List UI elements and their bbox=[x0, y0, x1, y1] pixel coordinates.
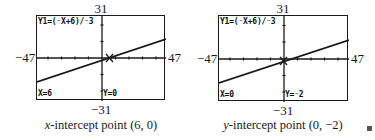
caption-x-intercept: x-intercept point (6, 0) bbox=[45, 118, 157, 132]
caption-text: -intercept point (0, −2) bbox=[229, 118, 343, 132]
equation-label: Y1=(⁻X+6)/⁻3 bbox=[38, 17, 93, 26]
graph-plot bbox=[37, 16, 166, 101]
graph-panel-x-intercept: 31 −47 47 bbox=[0, 0, 190, 140]
calculator-screen: Y1=(⁻X+6)/⁻3 X=6 Y=0 bbox=[36, 15, 165, 100]
graph-panel-y-intercept: 31 −47 47 Y1=(⁻X+6)/⁻3 X=0 Y=⁻2 bbox=[182, 0, 372, 140]
equation-label: Y1=(⁻X+6)/⁻3 bbox=[220, 17, 275, 26]
ymax-label: 31 bbox=[95, 2, 108, 15]
xmin-label: −47 bbox=[15, 51, 35, 64]
xmin-label: −47 bbox=[197, 52, 217, 65]
calculator-screen: Y1=(⁻X+6)/⁻3 X=0 Y=⁻2 bbox=[218, 15, 348, 101]
caption-y-intercept: y-intercept point (0, −2) bbox=[223, 118, 343, 132]
end-of-section-square-icon bbox=[367, 126, 372, 131]
graph-plot bbox=[219, 16, 349, 102]
caption-text: -intercept point (6, 0) bbox=[50, 118, 157, 132]
ymin-label: −31 bbox=[273, 104, 293, 117]
x-readout: X=6 bbox=[38, 89, 52, 98]
x-readout: X=0 bbox=[220, 90, 234, 99]
y-readout: Y=0 bbox=[103, 89, 117, 98]
xmax-label: 47 bbox=[168, 51, 181, 64]
y-readout: Y=⁻2 bbox=[285, 90, 303, 99]
ymin-label: −31 bbox=[91, 103, 111, 116]
ymax-label: 31 bbox=[277, 2, 290, 15]
xmax-label: 47 bbox=[351, 52, 364, 65]
